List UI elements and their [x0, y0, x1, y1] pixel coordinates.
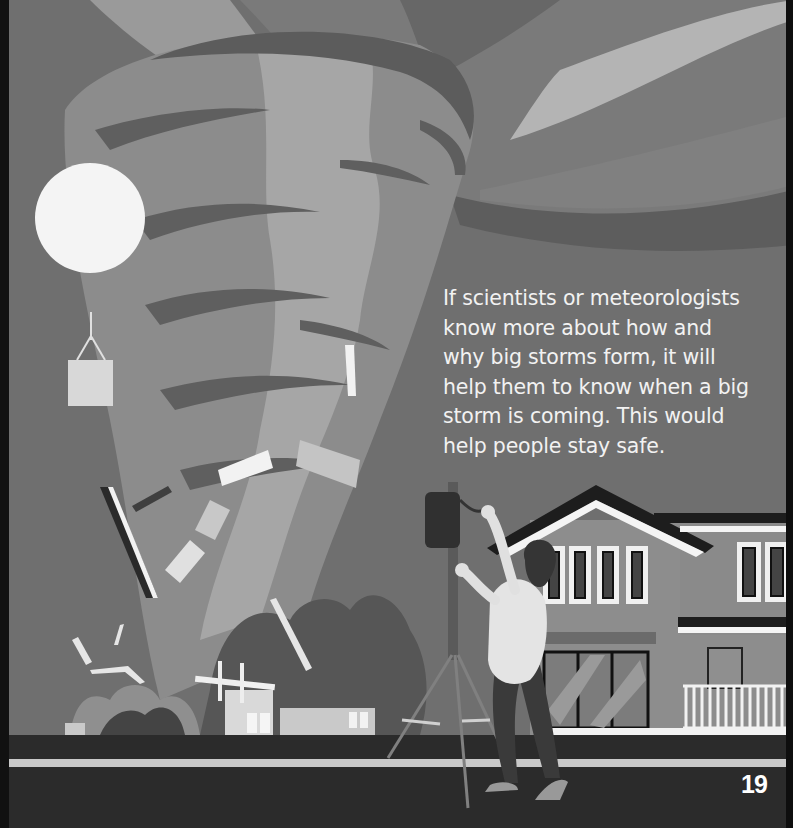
- page-edge-left: [0, 0, 9, 828]
- body-text: If scientists or meteorologists know mor…: [443, 284, 793, 461]
- road: [0, 735, 793, 828]
- book-page: If scientists or meteorologists know mor…: [0, 0, 793, 828]
- tornado: [64, 32, 473, 700]
- page-number: 19: [741, 770, 767, 799]
- instrument-box: [68, 360, 113, 406]
- road-stripe: [0, 759, 793, 767]
